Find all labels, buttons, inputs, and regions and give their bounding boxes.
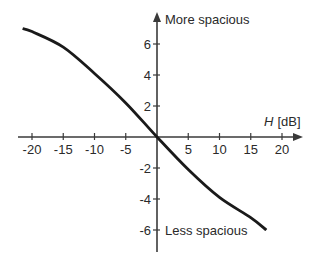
- x-tick-label: -15: [54, 142, 73, 157]
- x-axis-unit: [dB]: [277, 114, 300, 129]
- x-tick-label: -20: [23, 142, 42, 157]
- y-tick-label: 2: [144, 99, 151, 114]
- y-tick-label: 4: [144, 68, 151, 83]
- x-tick-label: -10: [85, 142, 104, 157]
- y-tick-label: -4: [139, 192, 151, 207]
- x-axis-arrow-icon: [293, 133, 303, 141]
- x-tick-label: 5: [185, 142, 192, 157]
- chart-canvas: -20-15-10-55101520642-2-4-6 More spaciou…: [0, 0, 315, 261]
- y-tick-label: 6: [144, 37, 151, 52]
- x-axis-label: H[dB]: [264, 114, 301, 129]
- x-axis-variable: H: [264, 114, 274, 129]
- axes: [18, 12, 303, 252]
- x-tick-label: 20: [275, 142, 289, 157]
- y-axis-arrow-icon: [153, 12, 161, 22]
- y-tick-label: -6: [139, 223, 151, 238]
- x-tick-label: 15: [244, 142, 258, 157]
- x-tick-label: -5: [120, 142, 132, 157]
- annotation-less-spacious: Less spacious: [165, 223, 248, 238]
- x-tick-label: 10: [212, 142, 226, 157]
- y-tick-label: -2: [139, 161, 151, 176]
- annotation-more-spacious: More spacious: [165, 12, 250, 27]
